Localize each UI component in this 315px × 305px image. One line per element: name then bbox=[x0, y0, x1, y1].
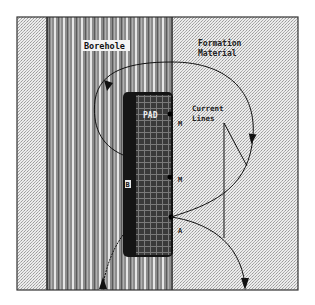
borehole-label: Borehole bbox=[84, 41, 125, 51]
pad-label: PAD bbox=[143, 111, 158, 120]
electrode-m2-dot bbox=[168, 175, 173, 180]
borehole-resistivity-diagram: Borehole Formation Material PAD B M M A … bbox=[0, 0, 315, 305]
left-formation-strip bbox=[17, 17, 47, 290]
formation-label-line1: Formation bbox=[198, 38, 242, 48]
electrode-m1-dot bbox=[168, 112, 173, 117]
current-lines-label-line2: Lines bbox=[192, 114, 215, 123]
electrode-m1-label: M bbox=[178, 120, 182, 128]
pad: PAD B bbox=[123, 92, 173, 257]
electrode-b-label: B bbox=[126, 181, 130, 189]
current-lines-label-line1: Current bbox=[192, 104, 224, 113]
electrode-m2-label: M bbox=[178, 176, 182, 184]
formation-label-line2: Material bbox=[198, 48, 237, 58]
